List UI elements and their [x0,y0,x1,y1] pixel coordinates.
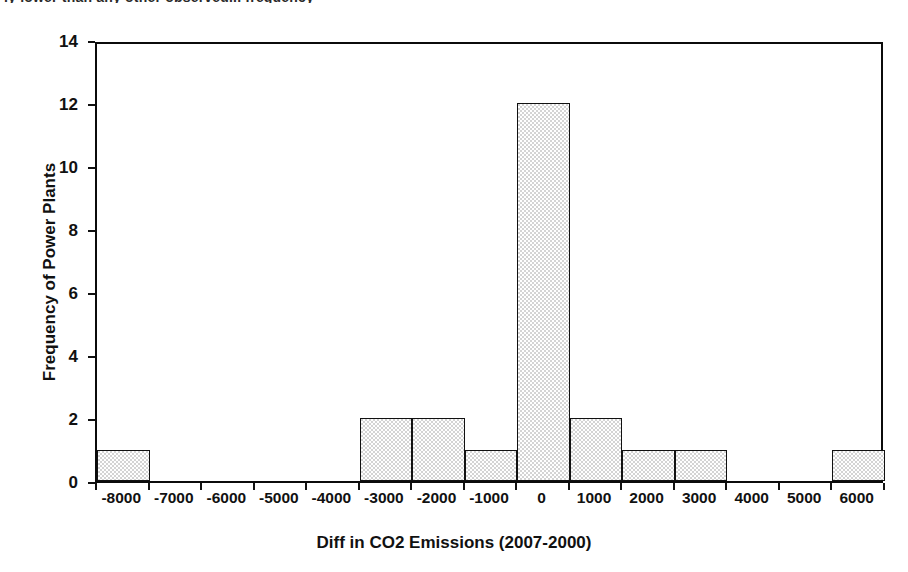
x-axis: -8000-7000-6000-5000-4000-3000-2000-1000… [0,0,908,572]
x-tick-mark [883,483,885,490]
histogram-figure: ly lower than any other observed... freq… [0,0,908,572]
x-axis-title: Diff in CO2 Emissions (2007-2000) [0,533,908,553]
y-axis-title: Frequency of Power Plants [40,72,60,472]
x-tick-label: 6000 [817,489,897,507]
